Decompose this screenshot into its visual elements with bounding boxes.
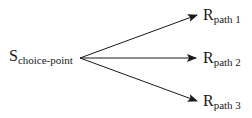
source-node-label: Schoice-point	[9, 47, 73, 65]
target-3-subscript: path 3	[214, 99, 241, 111]
target-node-label-3: Rpath 3	[203, 92, 241, 110]
target-node-label-1: Rpath 1	[203, 6, 241, 24]
source-main: S	[9, 47, 18, 64]
target-1-subscript: path 1	[214, 13, 241, 25]
source-subscript: choice-point	[18, 54, 73, 66]
arrow-to-path-3	[80, 58, 197, 101]
target-2-subscript: path 2	[214, 56, 241, 68]
arrow-to-path-1	[80, 15, 197, 58]
diagram-canvas: Schoice-point Rpath 1 Rpath 2 Rpath 3	[0, 0, 252, 118]
target-1-main: R	[203, 6, 214, 23]
target-node-label-2: Rpath 2	[203, 49, 241, 67]
target-3-main: R	[203, 92, 214, 109]
target-2-main: R	[203, 49, 214, 66]
